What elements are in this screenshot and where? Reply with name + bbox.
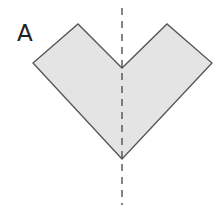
symmetry-figure: A xyxy=(0,0,215,205)
figure-label: A xyxy=(17,22,33,45)
